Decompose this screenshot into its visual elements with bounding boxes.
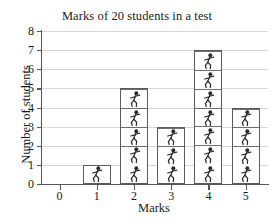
unit-cell: [233, 109, 259, 128]
unit-cell: [233, 146, 259, 165]
person-figure-icon: [200, 71, 217, 89]
person-figure-icon: [200, 146, 217, 164]
person-figure-icon: [237, 109, 254, 127]
y-tick-label: 1: [20, 159, 34, 171]
unit-cell: [158, 165, 184, 183]
unit-cell: [195, 108, 221, 127]
unit-cell: [195, 89, 221, 108]
pictogram-bar-chart: Marks of 20 students in a test Number of…: [0, 0, 274, 224]
person-figure-icon: [126, 90, 143, 108]
x-tick-label: 3: [161, 190, 181, 202]
y-tick-label: 7: [20, 44, 34, 56]
person-figure-icon: [200, 90, 217, 108]
person-figure-icon: [237, 128, 254, 146]
unit-cell: [121, 146, 147, 165]
person-figure-icon: [200, 127, 217, 145]
unit-cell: [195, 51, 221, 70]
unit-cell: [158, 128, 184, 146]
unit-cell: [121, 89, 147, 108]
unit-cell: [195, 126, 221, 145]
bar-mark-2: [120, 88, 148, 184]
person-figure-icon: [237, 147, 254, 165]
bar-mark-3: [157, 127, 185, 184]
person-figure-icon: [163, 147, 180, 165]
person-figure-icon: [126, 165, 143, 183]
person-figure-icon: [163, 165, 180, 183]
person-figure-icon: [163, 128, 180, 146]
person-figure-icon: [237, 165, 254, 183]
person-figure-icon: [88, 166, 105, 183]
y-tick-label: 5: [20, 82, 34, 94]
unit-cell: [195, 70, 221, 89]
unit-cell: [121, 108, 147, 127]
unit-cell: [233, 164, 259, 183]
y-tick-label: 0: [20, 178, 34, 190]
person-figure-icon: [200, 52, 217, 70]
y-tick-label: 4: [20, 102, 34, 114]
unit-cell: [195, 164, 221, 183]
x-tick-label: 0: [50, 190, 70, 202]
unit-cell: [233, 127, 259, 146]
bar-mark-5: [232, 108, 260, 185]
x-axis-line: [41, 184, 269, 185]
unit-cell: [158, 146, 184, 164]
y-tick-label: 8: [20, 25, 34, 37]
x-tick-label: 2: [124, 190, 144, 202]
x-axis-title: Marks: [40, 201, 268, 216]
person-figure-icon: [200, 165, 217, 183]
unit-cell: [195, 145, 221, 164]
x-tick-label: 1: [87, 190, 107, 202]
bar-mark-4: [194, 50, 222, 184]
unit-cell: [121, 127, 147, 146]
unit-cell: [84, 166, 110, 183]
y-tick-label: 2: [20, 140, 34, 152]
x-tick-label: 5: [236, 190, 256, 202]
x-tick-label: 4: [198, 190, 218, 202]
y-tick-mark: [37, 184, 42, 185]
person-figure-icon: [126, 128, 143, 146]
chart-title: Marks of 20 students in a test: [0, 9, 274, 24]
unit-cell: [121, 164, 147, 183]
person-figure-icon: [200, 109, 217, 127]
bar-mark-1: [83, 165, 111, 184]
person-figure-icon: [126, 109, 143, 127]
person-figure-icon: [126, 146, 143, 164]
y-tick-label: 6: [20, 63, 34, 75]
plot-area: [41, 31, 268, 184]
y-tick-label: 3: [20, 121, 34, 133]
